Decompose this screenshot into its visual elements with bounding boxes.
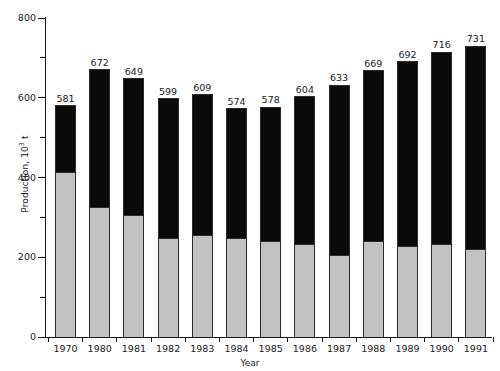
bar-value-label-1983: 609: [193, 83, 211, 93]
bar-value-label-1984: 574: [227, 97, 245, 107]
bar-value-label-1990: 716: [433, 40, 451, 50]
bar-value-label-1986: 604: [296, 85, 314, 95]
bar-1986: 604: [294, 96, 315, 337]
bar-1980: 672: [89, 69, 110, 337]
bar-value-label-1981: 649: [125, 67, 143, 77]
bar-segment-lower-1989: [398, 246, 417, 337]
bar-1987: 633: [329, 85, 350, 337]
x-tick-1989: [390, 337, 391, 342]
x-axis-title: Year: [0, 358, 500, 368]
x-tick-1986: [287, 337, 288, 342]
bar-segment-lower-1970: [56, 172, 75, 337]
x-tick-1983: [185, 337, 186, 342]
bar-segment-lower-1985: [261, 241, 280, 337]
x-tick-1981: [116, 337, 117, 342]
bar-value-label-1970: 581: [56, 94, 74, 104]
bar-segment-lower-1980: [90, 207, 109, 337]
x-tick-1982: [151, 337, 152, 342]
bar-segment-lower-1990: [432, 244, 451, 337]
bar-value-label-1987: 633: [330, 73, 348, 83]
y-tick-label-0: 0: [0, 332, 36, 342]
x-tick-1985: [253, 337, 254, 342]
x-tick-label-1991: 1991: [453, 344, 499, 354]
bar-1989: 692: [397, 61, 418, 337]
bar-segment-lower-1988: [364, 241, 383, 337]
y-tick-800: [38, 18, 46, 19]
x-tick-1987: [322, 337, 323, 342]
x-tick-end: [493, 337, 494, 342]
bar-1991: 731: [465, 46, 486, 337]
bar-value-label-1991: 731: [467, 34, 485, 44]
y-tick-400: [38, 177, 46, 178]
bar-segment-lower-1984: [227, 238, 246, 337]
bar-value-label-1985: 578: [262, 95, 280, 105]
x-tick-1970: [48, 337, 49, 342]
bar-1983: 609: [192, 94, 213, 337]
y-tick-0: [38, 337, 46, 338]
y-tick-200: [38, 257, 46, 258]
y-tick-label-200: 200: [0, 252, 36, 262]
y-axis-title-exponent: 3: [18, 142, 26, 146]
bar-1990: 716: [431, 52, 452, 338]
y-axis-title-suffix: t: [20, 135, 30, 142]
y-tick-label-800: 800: [0, 13, 36, 23]
production-bar-chart: Production, 103 t 0200400600800 58167264…: [0, 0, 500, 371]
bar-value-label-1989: 692: [398, 50, 416, 60]
x-tick-1990: [424, 337, 425, 342]
bar-segment-lower-1983: [193, 235, 212, 337]
bar-1988: 669: [363, 70, 384, 337]
bar-value-label-1988: 669: [364, 59, 382, 69]
bar-segment-lower-1986: [295, 244, 314, 337]
bar-1985: 578: [260, 107, 281, 337]
bar-1981: 649: [123, 78, 144, 337]
x-tick-1980: [82, 337, 83, 342]
bar-1982: 599: [158, 98, 179, 337]
x-tick-1988: [356, 337, 357, 342]
y-tick-label-600: 600: [0, 93, 36, 103]
bar-segment-lower-1987: [330, 255, 349, 337]
bar-segment-lower-1991: [466, 249, 485, 337]
bar-segment-lower-1981: [124, 215, 143, 337]
x-tick-1984: [219, 337, 220, 342]
bar-value-label-1982: 599: [159, 87, 177, 97]
bar-value-label-1980: 672: [91, 58, 109, 68]
bar-segment-lower-1982: [159, 238, 178, 337]
x-tick-1991: [458, 337, 459, 342]
plot-area: 581672649599609574578604633669692716731: [46, 18, 492, 337]
y-tick-600: [38, 97, 46, 98]
y-tick-label-400: 400: [0, 173, 36, 183]
bar-1984: 574: [226, 108, 247, 337]
bar-1970: 581: [55, 105, 76, 337]
